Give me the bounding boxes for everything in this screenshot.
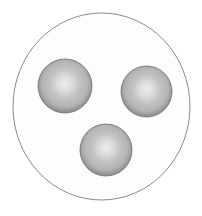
figure-canvas [0,0,202,216]
sphere-right [121,66,172,117]
circle-three-spheres-diagram [0,0,202,216]
sphere-bottom [80,124,132,176]
sphere-top-left [38,59,92,113]
